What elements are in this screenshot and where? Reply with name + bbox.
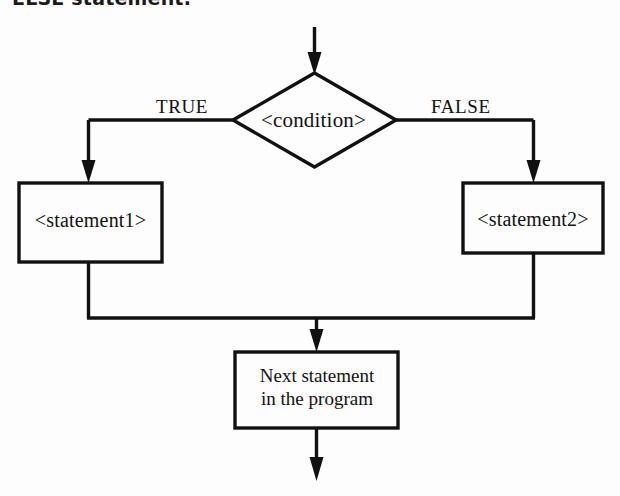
false-branch-arrow-head	[527, 160, 541, 183]
statement2-box-label: <statement2>	[463, 208, 603, 232]
exit-arrow-head	[310, 457, 324, 481]
flowchart-canvas	[0, 0, 620, 496]
next-statement-line-2: in the program	[236, 387, 398, 410]
flowchart-diagram: ELSE statement.	[0, 0, 620, 496]
next-statement-box-label: Next statement in the program	[236, 364, 398, 410]
edge-label-true: TRUE	[156, 96, 208, 118]
next-statement-line-1: Next statement	[236, 364, 398, 387]
edge-label-false: FALSE	[431, 96, 491, 118]
true-branch-arrow-head	[82, 160, 96, 183]
statement1-box-label: <statement1>	[19, 209, 162, 233]
merge-to-next-arrow-head	[310, 329, 324, 352]
condition-diamond-label: <condition>	[232, 108, 395, 133]
